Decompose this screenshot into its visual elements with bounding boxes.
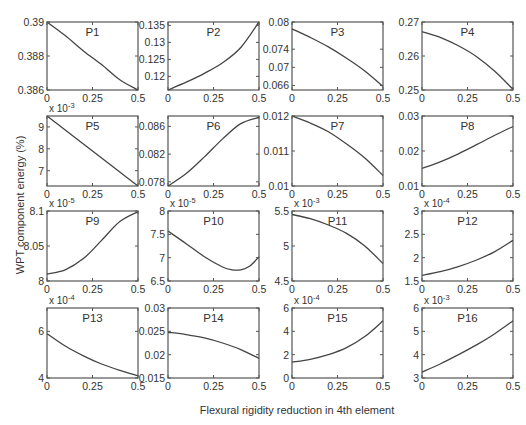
subplot-p11: P1100.250.54.555.5x 10-3 xyxy=(274,196,390,295)
x-axis-label: Flexural rigidity reduction in 4th eleme… xyxy=(200,404,394,416)
y-tick-label: 0.086 xyxy=(139,120,165,132)
axis-multiplier: x 10-4 xyxy=(294,293,320,306)
y-tick-label: 0.011 xyxy=(264,145,290,157)
y-tick-label: 7 xyxy=(159,252,165,264)
x-tick-label: 0.25 xyxy=(457,188,478,200)
x-tick-label: 0.5 xyxy=(376,380,391,392)
x-tick-label: 0.5 xyxy=(131,188,146,200)
subplot-p3: P300.250.50.0660.070.0740.08 xyxy=(263,16,391,104)
y-tick-label: 0.27 xyxy=(399,16,420,28)
x-tick-label: 0.25 xyxy=(203,92,224,104)
y-tick-label: 0.012 xyxy=(263,110,289,122)
y-tick-label: 6.5 xyxy=(150,275,165,287)
subplot-title: P3 xyxy=(330,26,344,38)
x-tick-label: 0.25 xyxy=(327,188,348,200)
x-tick-label: 0 xyxy=(165,283,171,295)
x-tick-label: 0 xyxy=(419,380,425,392)
y-tick-label: 4 xyxy=(38,372,44,384)
y-tick-label: 0.066 xyxy=(263,79,289,91)
axis-multiplier: x 10-3 xyxy=(424,293,450,306)
y-tick-label: 0.12 xyxy=(145,70,166,82)
x-tick-label: 0 xyxy=(44,283,50,295)
subplot-title: P13 xyxy=(82,312,102,324)
subplot-title: P5 xyxy=(85,120,99,132)
y-tick-label: 4 xyxy=(283,325,289,337)
x-tick-label: 0.25 xyxy=(327,380,348,392)
x-tick-label: 0 xyxy=(419,283,425,295)
y-tick-label: 9 xyxy=(38,121,44,133)
subplot-p6: P600.250.50.0780.0820.086 xyxy=(139,116,267,200)
data-line xyxy=(422,240,513,275)
subplot-grid: P100.250.50.3860.3880.39P200.250.50.120.… xyxy=(18,16,521,392)
y-tick-label: 6 xyxy=(283,302,289,314)
x-tick-label: 0.25 xyxy=(327,92,348,104)
subplot-title: P16 xyxy=(457,312,477,324)
x-tick-label: 0 xyxy=(165,380,171,392)
y-tick-label: 2.5 xyxy=(404,228,419,240)
y-tick-label: 8 xyxy=(159,205,165,217)
subplot-p1: P100.250.50.3860.3880.39 xyxy=(18,16,146,104)
x-tick-label: 0.5 xyxy=(506,188,521,200)
data-line xyxy=(422,127,513,169)
subplot-title: P8 xyxy=(460,120,474,132)
data-line xyxy=(168,332,259,358)
subplot-p7: P700.250.50.010.0110.012 xyxy=(263,110,391,200)
y-tick-label: 0.13 xyxy=(145,36,166,48)
subplot-title: P10 xyxy=(203,215,223,227)
x-tick-label: 0.25 xyxy=(82,380,103,392)
y-tick-label: 2 xyxy=(283,349,289,361)
x-tick-label: 0 xyxy=(419,92,425,104)
y-tick-label: 4.5 xyxy=(274,275,289,287)
y-axis-label: WPT component energy (%) xyxy=(14,136,26,275)
x-tick-label: 0.25 xyxy=(82,188,103,200)
subplot-p10: P1000.250.56.577.58x 10-5 xyxy=(150,196,266,295)
x-tick-label: 0.5 xyxy=(506,92,521,104)
x-tick-label: 0.25 xyxy=(457,380,478,392)
y-tick-label: 0.02 xyxy=(399,145,420,157)
data-line xyxy=(422,321,513,372)
y-tick-label: 5 xyxy=(413,325,419,337)
y-tick-label: 5.5 xyxy=(274,205,289,217)
x-tick-label: 0 xyxy=(289,283,295,295)
x-tick-label: 0.5 xyxy=(131,92,146,104)
y-tick-label: 0.01 xyxy=(399,180,420,192)
x-tick-label: 0 xyxy=(165,92,171,104)
y-tick-label: 0 xyxy=(283,372,289,384)
y-tick-label: 6 xyxy=(38,325,44,337)
y-tick-label: 0.015 xyxy=(139,372,165,384)
subplot-title: P14 xyxy=(203,312,224,324)
x-tick-label: 0.5 xyxy=(376,92,391,104)
y-tick-label: 0.388 xyxy=(18,50,44,62)
y-tick-label: 0.01 xyxy=(269,180,290,192)
y-tick-label: 0.08 xyxy=(269,16,290,28)
y-tick-label: 0.025 xyxy=(139,325,165,337)
x-tick-label: 0.5 xyxy=(376,188,391,200)
y-tick-label: 3 xyxy=(413,205,419,217)
data-line xyxy=(47,334,138,376)
subplot-title: P15 xyxy=(327,312,347,324)
subplot-p5: P500.250.5789x 10-3 xyxy=(38,101,145,200)
x-tick-label: 0.25 xyxy=(327,283,348,295)
y-tick-label: 7.5 xyxy=(150,228,165,240)
x-tick-label: 0.5 xyxy=(131,283,146,295)
x-tick-label: 0.25 xyxy=(203,380,224,392)
subplot-p16: P1600.250.53456x 10-3 xyxy=(413,293,520,392)
y-tick-label: 4 xyxy=(413,349,419,361)
y-tick-label: 1.5 xyxy=(404,275,419,287)
y-tick-label: 0.03 xyxy=(399,110,420,122)
subplot-title: P4 xyxy=(460,26,475,38)
data-line xyxy=(422,32,513,90)
y-tick-label: 0.25 xyxy=(399,84,420,96)
x-tick-label: 0.25 xyxy=(457,92,478,104)
x-tick-label: 0.25 xyxy=(457,283,478,295)
axis-multiplier: x 10-4 xyxy=(49,293,75,306)
x-tick-label: 0.25 xyxy=(203,188,224,200)
axis-multiplier: x 10-4 xyxy=(424,196,450,209)
subplot-p2: P200.250.50.120.1250.130.135 xyxy=(139,19,267,104)
subplot-title: P9 xyxy=(85,215,99,227)
x-tick-label: 0.5 xyxy=(252,92,267,104)
y-tick-label: 0.082 xyxy=(139,148,165,160)
x-tick-label: 0 xyxy=(289,380,295,392)
y-tick-label: 0.074 xyxy=(263,43,289,55)
y-tick-label: 8 xyxy=(38,275,44,287)
